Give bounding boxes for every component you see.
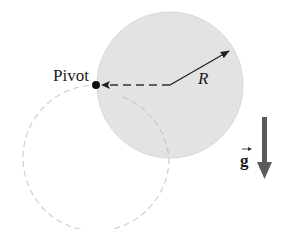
diagram-canvas: Pivot R g — [0, 0, 286, 229]
pivot-dot — [92, 81, 100, 89]
gravity-arrow — [257, 117, 272, 179]
gravity-label: g — [240, 151, 249, 170]
pivot-label: Pivot — [53, 66, 89, 85]
radius-label: R — [197, 69, 209, 88]
